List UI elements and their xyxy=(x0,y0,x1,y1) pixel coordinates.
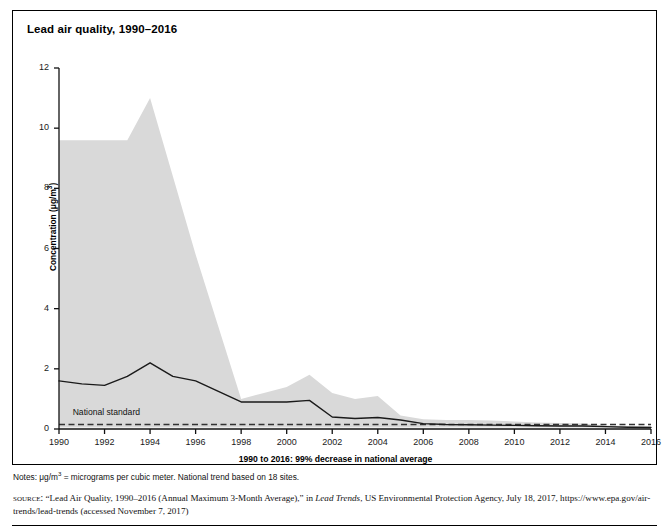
x-axis-tick-label: 2016 xyxy=(631,437,671,447)
y-axis-unit-mu: μ xyxy=(48,204,58,209)
x-axis-tick-label: 2014 xyxy=(585,437,625,447)
plot-area: Concentration (μg/m3) 1990 to 2016: 99% … xyxy=(13,11,658,466)
notes-rest: = micrograms per cubic meter. National t… xyxy=(61,472,299,482)
x-axis-tick-label: 2004 xyxy=(358,437,398,447)
x-axis-tick-label: 1992 xyxy=(85,437,125,447)
y-axis-tick-label: 4 xyxy=(23,303,49,313)
figure-frame: Lead air quality, 1990–2016 Concentratio… xyxy=(12,10,657,465)
x-axis-tick-label: 2002 xyxy=(312,437,352,447)
notes-prefix: Notes: μg/m xyxy=(13,472,58,482)
concentration-range-band xyxy=(59,98,651,428)
y-axis-unit-g: g/m xyxy=(48,189,58,204)
y-axis-tick-label: 6 xyxy=(23,243,49,253)
y-axis-title: Concentration (μg/m3) xyxy=(46,142,58,312)
chart-canvas xyxy=(13,11,658,466)
x-axis-title: 1990 to 2016: 99% decrease in national a… xyxy=(13,454,658,464)
notes-line: Notes: μg/m3 = micrograms per cubic mete… xyxy=(13,470,661,483)
figure-root: Lead air quality, 1990–2016 Concentratio… xyxy=(0,0,671,529)
source-label: source: xyxy=(13,493,43,503)
y-axis-tick-label: 0 xyxy=(23,423,49,433)
bottom-rule xyxy=(12,525,657,526)
y-axis-tick-label: 2 xyxy=(23,363,49,373)
x-axis-tick-label: 1998 xyxy=(221,437,261,447)
x-axis-tick-label: 2000 xyxy=(267,437,307,447)
y-axis-title-suffix: ) xyxy=(48,183,58,186)
x-axis-tick-label: 2008 xyxy=(449,437,489,447)
y-axis-tick-label: 12 xyxy=(23,62,49,72)
x-axis-tick-label: 1990 xyxy=(39,437,79,447)
x-axis-tick-label: 2006 xyxy=(403,437,443,447)
y-axis-tick-label: 10 xyxy=(23,122,49,132)
y-axis-title-prefix: Concentration ( xyxy=(48,209,58,271)
x-axis-tick-label: 1996 xyxy=(176,437,216,447)
y-axis-tick-label: 8 xyxy=(23,182,49,192)
x-axis-tick-label: 2010 xyxy=(494,437,534,447)
footnotes: Notes: μg/m3 = micrograms per cubic mete… xyxy=(13,470,661,517)
national-standard-annotation: National standard xyxy=(73,407,140,417)
source-publication-title: Lead Trends xyxy=(315,493,360,503)
source-line: source: “Lead Air Quality, 1990–2016 (An… xyxy=(13,492,661,518)
x-axis-tick-label: 1994 xyxy=(130,437,170,447)
source-part-1: “Lead Air Quality, 1990–2016 (Annual Max… xyxy=(43,493,315,503)
x-axis-tick-label: 2012 xyxy=(540,437,580,447)
